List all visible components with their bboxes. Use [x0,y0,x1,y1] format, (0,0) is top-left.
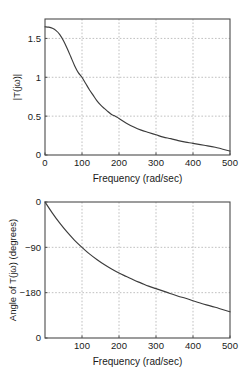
x-tick-label: 500 [222,157,238,168]
y-tick-label: 1 [36,72,41,83]
x-axis-title: Frequency (rad/sec) [93,173,182,184]
x-tick-label: 200 [111,340,127,351]
y-axis-title: |T(jω)| [11,74,22,101]
y-tick-label: 0 [36,332,41,343]
x-tick-label: 300 [148,157,164,168]
y-tick-label: 0.5 [28,111,41,122]
x-tick-label: 500 [222,340,238,351]
x-tick-label: 400 [185,340,201,351]
x-tick-label: 300 [148,340,164,351]
y-tick-label: −90 [25,242,41,253]
y-tick-label: 0 [36,149,41,160]
x-tick-label: 100 [74,340,90,351]
data-curve [45,202,230,312]
y-axis-title: Angle of T(jω) (degrees) [7,219,18,321]
phase-plot-figure: 1002003004005000−90−1800Frequency (rad/s… [0,196,250,392]
x-axis-title: Frequency (rad/sec) [93,356,182,367]
x-tick-label: 0 [42,157,47,168]
magnitude-plot-figure: 010020030040050000.511.5Frequency (rad/s… [0,0,250,196]
y-tick-label: 0 [36,196,41,207]
plot-frame [45,19,230,155]
y-tick-label: 1.5 [28,33,41,44]
magnitude-plot-svg: 010020030040050000.511.5Frequency (rad/s… [0,0,250,196]
phase-plot-svg: 1002003004005000−90−1800Frequency (rad/s… [0,196,250,392]
y-tick-label: −180 [20,287,41,298]
x-tick-label: 200 [111,157,127,168]
plot-frame [45,202,230,338]
data-curve [45,27,230,151]
x-tick-label: 400 [185,157,201,168]
x-tick-label: 100 [74,157,90,168]
